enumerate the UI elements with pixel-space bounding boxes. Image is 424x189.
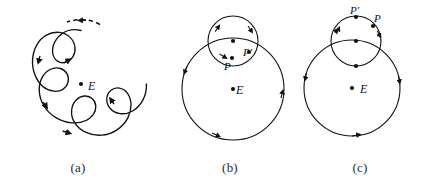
point-p-prime-label-c: P': [350, 4, 359, 16]
center-label-c: E: [360, 82, 367, 97]
epicycle-left-point-c: [334, 29, 338, 33]
center-point-c: [350, 86, 354, 90]
direction-arrow-a-4: [63, 131, 69, 133]
epicycle-center-point-c: [354, 39, 358, 43]
center-point-b: [231, 87, 235, 91]
direction-arrow-b-epicycle-bottom: [220, 54, 226, 58]
point-p-prime-label-b: P': [243, 46, 252, 58]
panel-c: [304, 15, 400, 136]
direction-arrow-b-epicycle-left: [215, 27, 218, 32]
point-p-label-c: P: [374, 12, 381, 24]
direction-arrow-b-deferent-left: [185, 67, 187, 73]
center-point-a: [79, 82, 83, 86]
epicycle-center-point-b: [231, 39, 235, 43]
panel-caption-c: (c): [340, 160, 380, 176]
center-label-a: E: [88, 79, 95, 94]
epicycle-bottom-point-c: [354, 64, 358, 68]
panel-caption-b: (b): [210, 160, 250, 176]
panel-a: [32, 20, 146, 136]
direction-arrow-c-deferent-right: [399, 76, 400, 82]
direction-arrow-a-5: [111, 100, 114, 104]
point-p-label-b: P: [224, 60, 231, 72]
panel-caption-a: (a): [58, 160, 98, 176]
direction-arrow-c-deferent-left: [305, 73, 306, 79]
center-label-b: E: [236, 83, 243, 98]
direction-arrow-a-1: [39, 56, 40, 62]
point-p-c: [371, 24, 375, 28]
panel-b: [182, 16, 284, 140]
direction-arrow-b-deferent-right: [281, 92, 283, 98]
direction-arrow-b-epicycle-right: [248, 26, 252, 31]
